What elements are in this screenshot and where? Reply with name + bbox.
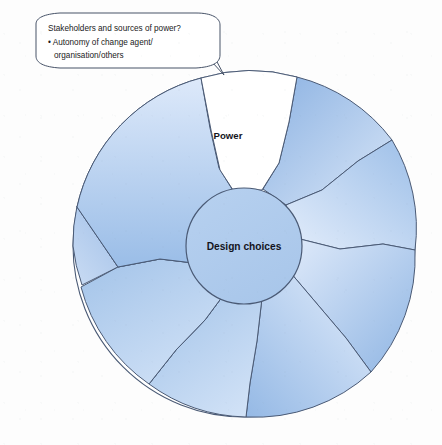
callout-line-2: • Autonomy of change agent/ <box>48 38 154 47</box>
callout-line-1: Stakeholders and sources of power? <box>48 24 181 33</box>
wheel-svg-canvas: Design choices Power Stakeholders and so… <box>0 0 442 445</box>
design-choices-wheel-diagram: Design choices Power Stakeholders and so… <box>0 0 442 445</box>
center-label: Design choices <box>207 241 282 252</box>
segment-label-power: Power <box>214 130 243 141</box>
callout-line-3: organisation/others <box>54 51 124 60</box>
